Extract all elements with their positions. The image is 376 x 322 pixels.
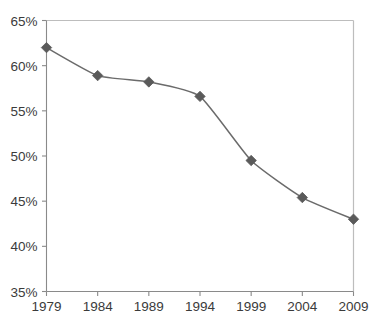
line-chart: 35%40%45%50%55%60%65%1979198419891994199… [0, 0, 376, 322]
y-tick-label: 55% [10, 104, 37, 119]
data-point-marker [297, 192, 307, 202]
x-tick-label: 1999 [236, 299, 266, 314]
y-tick-label: 40% [10, 239, 37, 254]
x-tick-label: 2009 [338, 299, 368, 314]
y-tick-label: 60% [10, 59, 37, 74]
x-tick-label: 1984 [83, 299, 114, 314]
data-point-marker [144, 77, 154, 87]
data-point-marker [92, 70, 102, 80]
data-point-marker [348, 214, 358, 224]
x-tick-label: 1979 [31, 299, 61, 314]
x-tick-label: 2004 [287, 299, 318, 314]
data-series-line [47, 48, 354, 220]
x-tick-label: 1989 [134, 299, 164, 314]
y-tick-label: 45% [10, 194, 37, 209]
y-tick-label: 35% [10, 285, 37, 300]
x-tick-label: 1994 [185, 299, 216, 314]
chart-container: 35%40%45%50%55%60%65%1979198419891994199… [0, 0, 376, 322]
data-point-marker [41, 42, 51, 52]
y-tick-label: 65% [10, 14, 37, 29]
y-tick-label: 50% [10, 149, 37, 164]
